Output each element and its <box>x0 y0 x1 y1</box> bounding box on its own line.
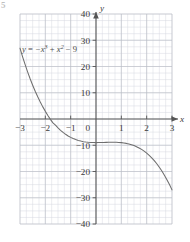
y-tick-label: −30 <box>76 193 91 203</box>
svg-text:y = −x3 + x2 − 9: y = −x3 + x2 − 9 <box>21 44 77 54</box>
x-tick-label: −1 <box>66 123 76 133</box>
y-tick-label: −40 <box>76 219 91 229</box>
y-tick-label-zero: 0 <box>85 123 90 133</box>
x-tick-label: 2 <box>144 123 149 133</box>
y-axis <box>93 12 99 224</box>
x-tick-label: 1 <box>119 123 124 133</box>
x-tick-label: −3 <box>15 123 25 133</box>
equation-annotation: y = −x3 + x2 − 9 <box>21 44 77 54</box>
equation-term2-op: + <box>48 44 57 54</box>
equation-term3: − 9 <box>64 44 77 54</box>
x-axis-label: x <box>179 114 185 124</box>
figure-container: 5 <box>0 0 190 242</box>
function-graph: 40 30 20 10 0 −10 −20 −30 −40 −3 −2 −1 1… <box>0 0 190 242</box>
equation-equals: = <box>26 44 35 54</box>
y-tick-label: 20 <box>81 62 91 72</box>
x-tick-label: 3 <box>170 123 175 133</box>
x-tick-label: −2 <box>40 123 50 133</box>
y-tick-label: 10 <box>81 88 91 98</box>
y-axis-label: y <box>99 3 105 13</box>
y-tick-label: −20 <box>76 167 91 177</box>
y-tick-label: 30 <box>81 36 91 46</box>
equation-term1-base: −x <box>35 44 45 54</box>
x-axis <box>20 116 178 122</box>
y-tick-label: 40 <box>81 9 91 19</box>
